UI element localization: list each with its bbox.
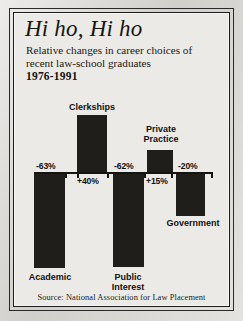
bar-value-government: -20% [178,161,198,171]
bar-value-academic: -63% [36,161,56,171]
bar-label-government: Government [160,218,226,228]
page-title: Hi ho, Hi ho [25,16,142,41]
date-range: 1976-1991 [26,70,78,82]
infographic-content: Hi ho, Hi ho Relative changes in career … [13,12,230,307]
bar-label-private-practice: Private Practice [132,124,190,144]
bar-public-interest [113,174,144,267]
bar-academic [34,174,65,268]
bar-label-private-practice-line2: Practice [143,134,178,144]
bar-government [176,174,205,216]
infographic-page: Hi ho, Hi ho Relative changes in career … [0,0,243,321]
bar-value-clerkships: +40% [77,176,99,186]
bar-label-academic: Academic [21,272,79,282]
bar-label-public-interest-line2: Interest [112,282,145,292]
axis-tick [171,172,173,178]
subtitle: Relative changes in career choices of re… [26,44,216,69]
bar-clerkships [77,115,107,172]
bar-value-private-practice: +15% [146,176,168,186]
source-note: Source: National Association for Law Pla… [13,293,230,302]
bar-chart: -63% Academic +40% Clerkships -62% Publi… [13,86,230,282]
axis-tick [107,172,109,178]
axis-tick [65,172,67,178]
bar-label-public-interest: Public Interest [99,272,157,292]
bar-value-public-interest: -62% [114,161,134,171]
bar-label-private-practice-line1: Private [146,124,176,134]
bar-private-practice [147,150,173,172]
bar-label-public-interest-line1: Public [114,272,141,282]
bar-label-clerkships: Clerkships [62,102,122,112]
axis-tick [211,172,213,178]
